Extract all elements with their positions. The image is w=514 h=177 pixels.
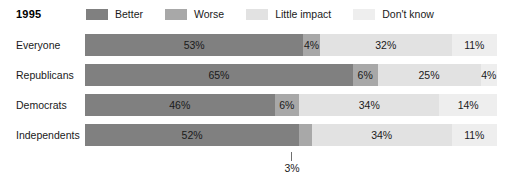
bar-segment[interactable]: 32% [320,34,452,56]
legend-item-better[interactable]: Better [86,8,143,20]
chart-header: 1995 Better Worse Little impact Don't kn… [0,0,514,30]
stacked-bar: 52%34%11% [85,124,497,146]
legend-label: Better [115,8,143,20]
chart-row: Independents52%34%11% [0,120,514,150]
stacked-bar: 53%4%32%11% [85,34,497,56]
bar-segment[interactable]: 11% [452,124,497,146]
page-title: 1995 [16,8,41,20]
bar-segment[interactable]: 25% [378,64,481,86]
bar-segment[interactable]: 4% [481,64,497,86]
legend-swatch-icon [165,9,187,20]
bar-segment[interactable] [299,124,311,146]
bar-segment[interactable]: 53% [85,34,303,56]
row-label: Democrats [16,90,67,120]
chart-rows: Everyone53%4%32%11%Republicans65%6%25%4%… [0,30,514,150]
bar-segment[interactable]: 34% [299,94,439,116]
stacked-bar: 46%6%34%14% [85,94,497,116]
chart-container: 1995 Better Worse Little impact Don't kn… [0,0,514,177]
legend-item-dont-know[interactable]: Don't know [353,8,434,20]
row-label: Republicans [16,60,74,90]
bar-segment[interactable]: 46% [85,94,275,116]
row-label: Independents [16,120,80,150]
bar-segment[interactable]: 65% [85,64,353,86]
legend-label: Don't know [382,8,434,20]
chart-row: Democrats46%6%34%14% [0,90,514,120]
row-label: Everyone [16,30,60,60]
bar-segment[interactable]: 6% [353,64,378,86]
bar-segment[interactable]: 52% [85,124,299,146]
legend-swatch-icon [353,9,375,20]
bar-segment[interactable]: 14% [439,94,497,116]
chart-row: Everyone53%4%32%11% [0,30,514,60]
legend-swatch-icon [246,9,268,20]
legend-item-little-impact[interactable]: Little impact [246,8,331,20]
legend-item-worse[interactable]: Worse [165,8,224,20]
annotation-callout: 3% [0,152,514,177]
bar-segment[interactable]: 4% [303,34,319,56]
callout-leader-line [291,152,292,161]
chart-row: Republicans65%6%25%4% [0,60,514,90]
bar-segment[interactable]: 34% [312,124,452,146]
legend-swatch-icon [86,9,108,20]
chart-legend: Better Worse Little impact Don't know [86,8,456,20]
legend-label: Little impact [275,8,331,20]
bar-segment[interactable]: 11% [452,34,497,56]
stacked-bar: 65%6%25%4% [85,64,497,86]
legend-label: Worse [194,8,224,20]
callout-value-label: 3% [278,162,306,174]
bar-segment[interactable]: 6% [275,94,300,116]
